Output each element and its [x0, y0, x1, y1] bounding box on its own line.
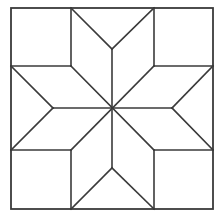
star-quilt-diagram — [0, 0, 218, 216]
left-v-top — [11, 66, 53, 108]
right-v-bottom — [172, 108, 213, 150]
bottom-v-right — [112, 168, 154, 209]
top-v-right — [112, 8, 154, 49]
right-v-top — [172, 66, 213, 108]
star-line-group — [11, 8, 213, 209]
left-v-bottom — [11, 108, 53, 150]
bottom-v-left — [71, 168, 112, 209]
top-v-left — [71, 8, 112, 49]
